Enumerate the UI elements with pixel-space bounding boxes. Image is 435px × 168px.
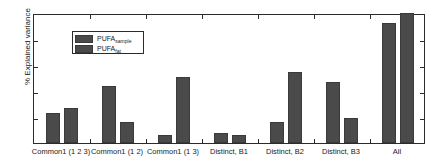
- x-tick-label-2: Common1 (1 3): [147, 147, 199, 156]
- x-tick-mark-top-1: [90, 15, 91, 19]
- legend-label-sample-base: PUFA: [97, 35, 115, 42]
- x-tick-label-1: Common1 (1 2): [91, 147, 143, 156]
- legend-label-fat-base: PUFA: [97, 45, 115, 52]
- bar-1-0: [102, 86, 116, 143]
- plot-area: PUFAsample PUFAfat: [33, 14, 425, 144]
- y-tick-mark-right-20: [420, 119, 424, 120]
- legend-label-fat: PUFAfat: [97, 45, 121, 52]
- bar-6-1: [400, 13, 414, 143]
- y-tick-mark-right-60: [420, 67, 424, 68]
- y-tick-mark-60: [34, 67, 38, 68]
- x-tick-label-3: Distinct, B1: [210, 147, 248, 156]
- legend-label-fat-sub: fat: [115, 48, 121, 54]
- y-tick-mark-20: [34, 119, 38, 120]
- x-tick-label-0: Common1 (1 2 3): [32, 147, 90, 156]
- bar-2-1: [176, 77, 190, 143]
- bar-chart-figure: % Explained variance 020406080100 PUFAsa…: [0, 0, 435, 168]
- bar-0-0: [46, 113, 60, 143]
- x-tick-mark-4: [258, 139, 259, 143]
- x-tick-mark-2: [146, 139, 147, 143]
- x-tick-label-5: Distinct, B3: [322, 147, 360, 156]
- x-tick-mark-3: [202, 139, 203, 143]
- legend-swatch-fat: [75, 45, 93, 53]
- x-tick-label-6: All: [393, 147, 401, 156]
- x-tick-mark-1: [90, 139, 91, 143]
- x-tick-mark-5: [314, 139, 315, 143]
- y-tick-mark-80: [34, 41, 38, 42]
- bar-3-1: [232, 135, 246, 143]
- bar-0-1: [64, 108, 78, 143]
- x-tick-mark-top-6: [370, 15, 371, 19]
- x-tick-mark-top-5: [314, 15, 315, 19]
- y-axis-title: % Explained variance: [23, 0, 32, 122]
- bar-4-0: [270, 122, 284, 143]
- bar-5-1: [344, 118, 358, 143]
- legend-entry-1: PUFAfat: [75, 44, 143, 53]
- y-tick-mark-40: [34, 93, 38, 94]
- bar-1-1: [120, 122, 134, 143]
- bar-3-0: [214, 133, 228, 143]
- x-tick-mark-6: [370, 139, 371, 143]
- legend-swatch-sample: [75, 35, 93, 43]
- bar-5-0: [326, 82, 340, 143]
- legend-label-sample: PUFAsample: [97, 35, 131, 42]
- legend: PUFAsample PUFAfat: [72, 31, 144, 54]
- bar-6-0: [382, 23, 396, 143]
- bar-4-1: [288, 72, 302, 144]
- x-tick-label-4: Distinct, B2: [266, 147, 304, 156]
- x-tick-mark-top-4: [258, 15, 259, 19]
- legend-label-sample-sub: sample: [115, 38, 131, 44]
- bar-2-0: [158, 135, 172, 143]
- x-tick-mark-top-2: [146, 15, 147, 19]
- y-tick-mark-right-80: [420, 41, 424, 42]
- y-tick-mark-right-40: [420, 93, 424, 94]
- x-tick-mark-top-3: [202, 15, 203, 19]
- legend-entry-0: PUFAsample: [75, 34, 143, 43]
